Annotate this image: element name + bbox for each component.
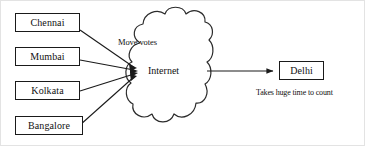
diagram-canvas: Chennai Mumbai Kolkata Bangalore Delhi M… <box>0 0 365 146</box>
node-kolkata-label: Kolkata <box>31 85 63 96</box>
internet-cloud-label: Internet <box>148 66 179 76</box>
node-delhi-label: Delhi <box>290 65 313 76</box>
edge-bangalore-to-internet <box>80 76 135 125</box>
node-bangalore[interactable]: Bangalore <box>15 116 83 135</box>
node-delhi[interactable]: Delhi <box>279 61 324 80</box>
node-mumbai-label: Mumbai <box>30 51 65 62</box>
node-chennai[interactable]: Chennai <box>15 13 80 32</box>
node-bangalore-label: Bangalore <box>28 120 70 131</box>
node-kolkata[interactable]: Kolkata <box>15 81 80 100</box>
edge-chennai-to-internet <box>80 30 135 68</box>
caption-takes-huge-time: Takes huge time to count <box>256 89 333 97</box>
node-mumbai[interactable]: Mumbai <box>15 47 80 66</box>
edge-kolkata-to-internet <box>80 74 134 91</box>
edge-label-move-votes: Move votes <box>118 38 157 47</box>
node-chennai-label: Chennai <box>30 17 64 28</box>
